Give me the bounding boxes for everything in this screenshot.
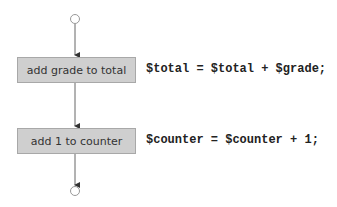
action-add-grade-to-total: add grade to total — [17, 57, 136, 83]
final-state-icon — [71, 187, 80, 196]
flow-connectors — [0, 0, 337, 207]
activity-diagram: add grade to total $total = $total + $gr… — [0, 0, 337, 207]
action-label: add grade to total — [27, 64, 126, 77]
initial-state-icon — [71, 15, 80, 24]
code-total-update: $total = $total + $grade; — [146, 62, 326, 76]
action-label: add 1 to counter — [31, 135, 123, 148]
code-counter-update: $counter = $counter + 1; — [146, 133, 319, 147]
action-add-one-to-counter: add 1 to counter — [17, 128, 136, 154]
